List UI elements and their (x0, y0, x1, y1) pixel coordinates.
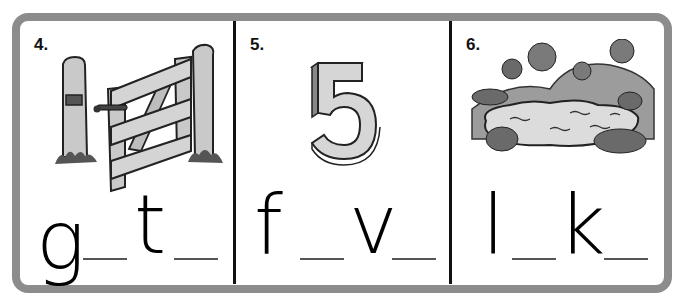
blank-line[interactable] (174, 258, 218, 260)
blank-line[interactable] (392, 258, 436, 260)
item-number: 5. (250, 35, 264, 55)
number-five-icon (304, 61, 384, 166)
blank-line[interactable] (512, 258, 556, 260)
given-letter: l (482, 184, 505, 266)
blank-line[interactable] (83, 258, 127, 260)
blank-line[interactable] (300, 258, 344, 260)
lake-icon (470, 39, 655, 159)
panel-five: 5. f v (236, 21, 449, 284)
word-puzzle: l k (452, 186, 656, 266)
word-puzzle: f v (236, 186, 449, 266)
given-letter: k (558, 184, 606, 266)
blank-line[interactable] (604, 258, 648, 260)
gate-icon (45, 29, 225, 194)
given-letter: f (254, 184, 283, 266)
given-letter: g (36, 200, 85, 282)
given-letter: t (134, 184, 166, 266)
panel-lake: 6. l k (452, 21, 656, 284)
given-letter: v (349, 184, 398, 266)
panel-gate: 4. g t (20, 21, 233, 284)
word-puzzle: g t (20, 186, 233, 266)
